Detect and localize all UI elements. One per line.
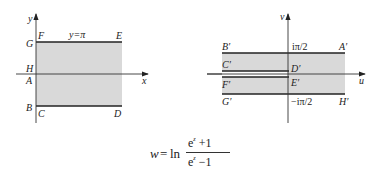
value-minus-i-pi-over-2: −iπ/2 — [291, 96, 312, 107]
y-axis-label: y — [27, 13, 33, 24]
label-e-prime: E′ — [290, 77, 300, 88]
fraction-bar — [186, 152, 230, 153]
label-d: D — [113, 108, 122, 119]
label-g: G — [26, 38, 33, 49]
label-b: B — [26, 102, 32, 113]
formula-ln: ln — [170, 146, 180, 162]
numerator-exponent: z — [193, 136, 195, 142]
label-f-prime: F′ — [221, 79, 231, 90]
label-h-prime: H′ — [338, 96, 349, 107]
label-b-prime: B′ — [222, 41, 231, 52]
formula-denominator: ez −1 — [188, 155, 211, 170]
formula-lhs: w — [150, 146, 159, 162]
denominator-rest: −1 — [196, 155, 212, 169]
mapping-formula: w = ln ez +1 ez −1 — [0, 136, 380, 176]
label-a: A — [25, 75, 33, 86]
label-f: F — [37, 30, 45, 41]
value-i-pi-over-2: iπ/2 — [292, 41, 308, 52]
label-h: H — [25, 63, 34, 74]
label-a-prime: A′ — [338, 41, 348, 52]
x-axis-label: x — [141, 75, 147, 86]
label-c-prime: C′ — [222, 59, 232, 70]
u-axis-label: u — [359, 75, 364, 86]
formula-numerator: ez +1 — [188, 136, 211, 151]
label-e: E — [115, 30, 122, 41]
v-axis-label: v — [280, 11, 285, 22]
z-plane-panel: y x G F y=π E H A B C D — [16, 13, 148, 123]
w-plane-panel: v u B′ iπ/2 A′ C′ D′ F′ E′ G′ −iπ/2 H′ — [207, 11, 365, 123]
label-g-prime: G′ — [222, 96, 232, 107]
label-c: C — [38, 108, 45, 119]
line-label-y-pi: y=π — [68, 29, 86, 40]
label-d-prime: D′ — [290, 63, 301, 74]
denominator-exponent: z — [193, 155, 195, 161]
numerator-rest: +1 — [196, 136, 212, 150]
formula-equals: = — [160, 146, 167, 162]
